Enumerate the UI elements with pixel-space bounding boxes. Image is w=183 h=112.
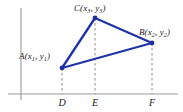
axis-label-e: E bbox=[88, 98, 102, 108]
geometry-figure: A(x1, y1) C(x3, y3) B(x2, y2) D E F bbox=[0, 0, 183, 112]
vertex-label-c-close: ) bbox=[103, 3, 106, 13]
vertex-label-c-sub2: 3 bbox=[99, 7, 102, 14]
axis-label-d: D bbox=[55, 98, 69, 108]
vertex-dot-a bbox=[60, 66, 65, 71]
triangle-abc bbox=[62, 18, 152, 68]
vertex-label-a-sub2: 1 bbox=[44, 55, 47, 62]
vertex-label-b-sub1: 2 bbox=[152, 31, 155, 38]
vertex-label-b-close: ) bbox=[167, 27, 170, 37]
vertex-label-b-sub2: 2 bbox=[164, 31, 167, 38]
axis-label-f: F bbox=[145, 98, 159, 108]
vertex-label-c: C(x3, y3) bbox=[74, 4, 106, 13]
vertex-label-a-sub1: 1 bbox=[32, 55, 35, 62]
vertex-label-c-sub1: 3 bbox=[87, 7, 90, 14]
vertex-label-b: B(x2, y2) bbox=[139, 28, 170, 37]
vertex-dot-b bbox=[150, 41, 155, 46]
vertex-dot-c bbox=[93, 16, 98, 21]
vertex-label-a: A(x1, y1) bbox=[19, 52, 50, 61]
vertex-label-a-close: ) bbox=[47, 51, 50, 61]
